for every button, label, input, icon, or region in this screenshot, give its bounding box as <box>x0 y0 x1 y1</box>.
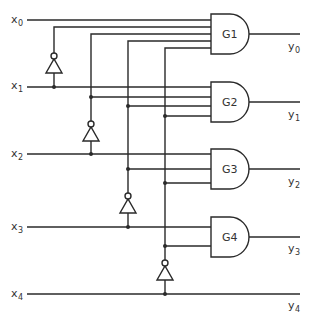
svg-text:G1: G1 <box>222 28 238 41</box>
output-label-y4: y 4 <box>288 299 300 314</box>
svg-text:y: y <box>288 40 295 53</box>
logic-circuit-diagram: x 0 x 1 x 2 x 3 x 4 <box>0 0 313 324</box>
svg-text:x: x <box>11 220 18 233</box>
output-label-y2: y 2 <box>288 175 300 190</box>
and-gate-g1: G1 <box>211 14 300 54</box>
svg-text:1: 1 <box>18 85 23 94</box>
svg-text:y: y <box>288 108 295 121</box>
svg-text:G4: G4 <box>222 231 238 244</box>
svg-text:4: 4 <box>295 305 300 314</box>
svg-text:x: x <box>11 79 18 92</box>
input-label-x0: x 0 <box>11 13 23 28</box>
svg-text:x: x <box>11 13 18 26</box>
svg-text:y: y <box>288 242 295 255</box>
svg-text:0: 0 <box>18 19 23 28</box>
and-gate-g2: G2 <box>211 82 300 122</box>
svg-text:2: 2 <box>18 153 23 162</box>
output-label-y0: y 0 <box>288 40 300 55</box>
svg-text:4: 4 <box>18 293 23 302</box>
svg-text:3: 3 <box>18 226 23 235</box>
svg-text:1: 1 <box>295 114 300 123</box>
svg-text:G3: G3 <box>222 163 238 176</box>
svg-text:y: y <box>288 175 295 188</box>
svg-text:0: 0 <box>295 46 300 55</box>
svg-text:G2: G2 <box>222 96 238 109</box>
input-label-x4: x 4 <box>11 287 23 302</box>
svg-text:x: x <box>11 287 18 300</box>
svg-text:3: 3 <box>295 248 300 257</box>
svg-text:x: x <box>11 147 18 160</box>
svg-text:2: 2 <box>295 181 300 190</box>
input-label-x2: x 2 <box>11 147 23 162</box>
inverter-2 <box>83 34 211 156</box>
and-gate-g3: G3 <box>211 149 300 189</box>
output-label-y1: y 1 <box>288 108 300 123</box>
input-label-x1: x 1 <box>11 79 23 94</box>
inverter-4 <box>157 48 211 296</box>
input-label-x3: x 3 <box>11 220 23 235</box>
output-label-y3: y 3 <box>288 242 300 257</box>
svg-text:y: y <box>288 299 295 312</box>
and-gate-g4: G4 <box>211 217 300 257</box>
